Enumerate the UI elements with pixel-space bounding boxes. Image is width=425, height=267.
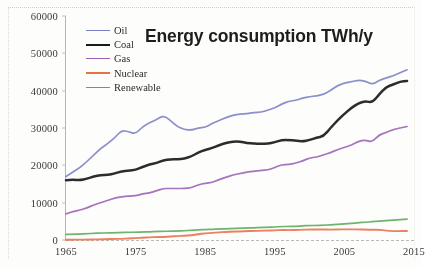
x-tick-label: 1965 [55, 246, 77, 257]
x-tick-label: 1985 [194, 246, 216, 257]
series-line-nuclear [66, 229, 407, 239]
legend-swatch-coal-icon [86, 44, 110, 46]
y-tick-label: 50000 [0, 48, 58, 59]
legend-label: Gas [114, 53, 130, 64]
y-tick-label: 20000 [0, 160, 58, 171]
x-tick-label: 2005 [333, 246, 355, 257]
y-tick-label: 30000 [0, 123, 58, 134]
legend-item-gas[interactable]: Gas [86, 52, 161, 66]
scan-border-top [8, 7, 413, 8]
x-tick-label: 1975 [125, 246, 147, 257]
legend-swatch-gas-icon [86, 58, 110, 59]
y-tick-label: 10000 [0, 197, 58, 208]
legend-item-coal[interactable]: Coal [86, 37, 161, 51]
x-tick-label: 1995 [264, 246, 286, 257]
legend-label: Nuclear [114, 68, 147, 79]
legend-item-nuclear[interactable]: Nuclear [86, 66, 161, 80]
legend-label: Renewable [114, 82, 161, 93]
series-line-coal [66, 81, 407, 180]
chart-legend: OilCoalGasNuclearRenewable [86, 23, 161, 95]
x-axis-line [66, 240, 414, 241]
legend-label: Oil [114, 25, 127, 36]
chart-title: Energy consumption TWh/y [145, 26, 373, 47]
legend-label: Coal [114, 39, 134, 50]
y-tick-label: 0 [0, 235, 58, 246]
x-tick-label: 2015 [403, 246, 425, 257]
y-tick-label: 60000 [0, 11, 58, 22]
y-tick-label: 40000 [0, 85, 58, 96]
series-line-gas [66, 127, 407, 214]
legend-swatch-renewable-icon [86, 87, 110, 88]
legend-swatch-nuclear-icon [86, 72, 110, 74]
legend-swatch-oil-icon [86, 30, 110, 31]
legend-item-renewable[interactable]: Renewable [86, 81, 161, 95]
legend-item-oil[interactable]: Oil [86, 23, 161, 37]
scan-border-right [414, 7, 415, 259]
